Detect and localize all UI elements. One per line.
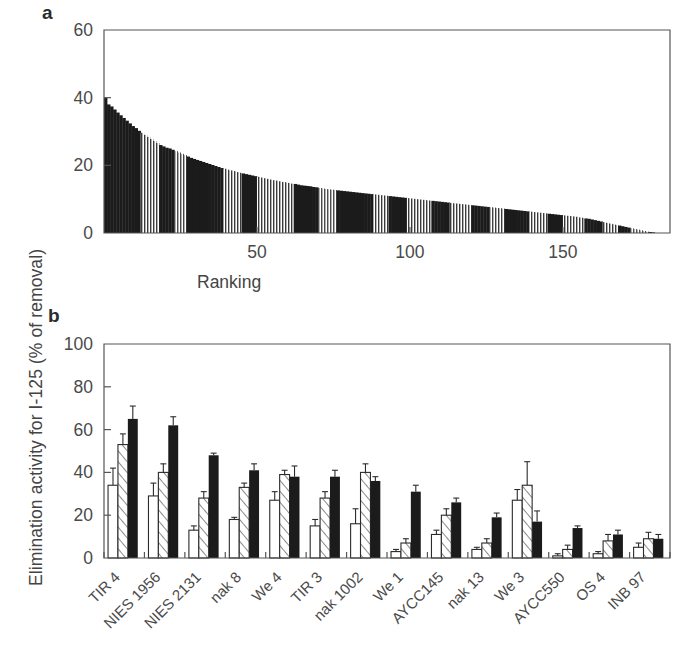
panel-b-error-bar bbox=[241, 483, 247, 487]
panel-a-bar bbox=[578, 217, 581, 233]
panel-a-bar bbox=[217, 167, 220, 233]
panel-a-y-tick-label: 40 bbox=[74, 88, 94, 108]
panel-a-bar bbox=[251, 175, 254, 233]
panel-a-bar bbox=[153, 141, 156, 233]
panel-b-bar bbox=[148, 496, 158, 558]
panel-a-bar bbox=[376, 195, 379, 233]
panel-b-bar bbox=[563, 549, 573, 558]
panel-b-category-label: nak 13 bbox=[443, 568, 487, 612]
panel-a-bar bbox=[291, 184, 294, 233]
panel-b-error-bar bbox=[372, 477, 378, 481]
panel-a-bar bbox=[477, 206, 480, 233]
panel-a-bar bbox=[147, 137, 150, 233]
panel-a-bar bbox=[624, 227, 627, 233]
panel-a-bar bbox=[389, 196, 392, 233]
panel-b-error-bar bbox=[575, 526, 581, 528]
panel-a-bar bbox=[502, 209, 505, 233]
panel-a-bar bbox=[223, 169, 226, 233]
panel-a-bar bbox=[174, 151, 177, 233]
panel-a-bar bbox=[324, 189, 327, 233]
panel-a-bar bbox=[587, 219, 590, 233]
panel-a-bar bbox=[236, 172, 239, 233]
panel-a-bar bbox=[352, 192, 355, 233]
panel-a-bar bbox=[572, 216, 575, 233]
panel-b-error-bar bbox=[646, 532, 652, 538]
panel-a-bar bbox=[486, 207, 489, 233]
panel-b-category-label: TIR 3 bbox=[287, 568, 325, 606]
panel-b-error-bar bbox=[433, 530, 439, 534]
panel-a-bar bbox=[165, 148, 168, 233]
panel-a-bar bbox=[248, 175, 251, 233]
panel-a-bar bbox=[107, 104, 110, 233]
panel-b-y-tick-label: 80 bbox=[74, 377, 94, 397]
panel-a-bar bbox=[459, 204, 462, 233]
panel-a-bar bbox=[603, 222, 606, 233]
panel-a-bar bbox=[621, 226, 624, 233]
panel-a-bar bbox=[471, 205, 474, 233]
panel-a-bar bbox=[177, 152, 180, 233]
panel-a-bar bbox=[496, 208, 499, 233]
panel-a-bar bbox=[254, 176, 257, 233]
panel-a-bar bbox=[110, 106, 113, 233]
panel-a-bar bbox=[233, 171, 236, 233]
panel-a-bar bbox=[474, 206, 477, 233]
panel-a-bar bbox=[413, 199, 416, 233]
panel-b-error-bar bbox=[524, 462, 530, 486]
panel-b-error-bar bbox=[413, 485, 419, 491]
panel-b-error-bar bbox=[565, 545, 571, 549]
panel-a-bar bbox=[520, 211, 523, 233]
panel-b-bar bbox=[431, 534, 441, 558]
panel-b-bar bbox=[158, 472, 168, 558]
panel-a-bar bbox=[257, 177, 260, 233]
panel-a-bar bbox=[272, 180, 275, 233]
panel-b-bar bbox=[320, 498, 330, 558]
panel-a-bar bbox=[144, 135, 147, 233]
panel-b-category-label: TIR 4 bbox=[85, 568, 123, 606]
panel-b-bar bbox=[199, 498, 209, 558]
panel-a-bar bbox=[499, 208, 502, 233]
panel-a-bar bbox=[434, 201, 437, 233]
panel-a-bar bbox=[584, 218, 587, 233]
panel-a-bar bbox=[128, 123, 131, 233]
panel-a-bar bbox=[398, 197, 401, 233]
panel-b-error-bar bbox=[211, 453, 217, 455]
figure-container: Elimination activity for I-125 (% of rem… bbox=[0, 0, 686, 654]
panel-a-bar bbox=[450, 203, 453, 233]
panel-a-bar bbox=[483, 207, 486, 233]
panel-b-error-bar bbox=[251, 464, 257, 470]
panel-a-bar bbox=[535, 212, 538, 233]
panel-b-bar bbox=[634, 547, 644, 558]
panel-a-bar bbox=[337, 190, 340, 233]
panel-b-bar bbox=[249, 470, 259, 558]
panel-a-bar bbox=[220, 168, 223, 233]
panel-b-bar bbox=[209, 455, 219, 558]
panel-a-bar bbox=[468, 205, 471, 233]
panel-b-category-label: We 3 bbox=[491, 568, 528, 605]
panel-a-bar bbox=[327, 189, 330, 233]
panel-a-bar bbox=[242, 173, 245, 233]
panel-a-bar bbox=[612, 224, 615, 233]
panel-a-bar bbox=[529, 212, 532, 233]
panel-b-error-bar bbox=[494, 513, 500, 517]
panel-a-bar bbox=[462, 204, 465, 233]
panel-b-error-bar bbox=[130, 406, 136, 419]
panel-a-bar bbox=[545, 213, 548, 233]
panel-a-bar bbox=[162, 146, 165, 233]
panel-b-bar bbox=[351, 524, 361, 558]
panel-a-bar bbox=[263, 178, 266, 233]
panel-a-bar bbox=[125, 121, 128, 233]
panel-a-bar bbox=[437, 202, 440, 233]
panel-a-bar bbox=[600, 222, 603, 234]
panel-a-bar bbox=[594, 220, 597, 233]
panel-a-bar bbox=[542, 213, 545, 233]
panel-a-bar bbox=[444, 202, 447, 233]
panel-a-bar bbox=[557, 215, 560, 233]
panel-a-bar bbox=[395, 197, 398, 233]
panel-a-bar bbox=[285, 182, 288, 233]
panel-b-bar bbox=[229, 519, 239, 558]
panel-a-bar bbox=[425, 200, 428, 233]
panel-b-error-bar bbox=[150, 483, 156, 496]
panel-a-bar bbox=[633, 229, 636, 233]
panel-a-bar bbox=[226, 170, 229, 233]
panel-b-error-bar bbox=[484, 539, 490, 543]
